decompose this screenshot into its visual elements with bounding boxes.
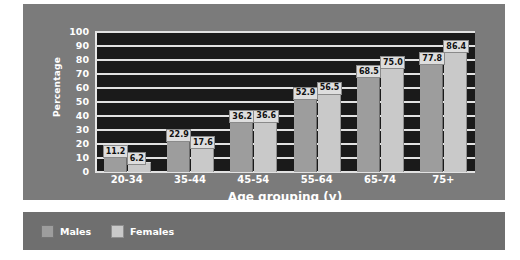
bar-females-65-74	[381, 66, 404, 172]
legend-swatch-icon	[111, 225, 124, 238]
gridline	[95, 101, 475, 103]
y-axis-tick-label: 40	[63, 111, 89, 121]
gridline	[95, 31, 475, 33]
y-axis-tick-label: 80	[63, 55, 89, 65]
x-axis-tick-label: 35-44	[158, 174, 221, 185]
x-axis-tick-label: 45-54	[222, 174, 285, 185]
y-axis-tick-label: 0	[63, 167, 89, 177]
value-label: 36.2	[229, 110, 254, 123]
bar-males-35-44	[167, 139, 190, 172]
y-axis-tick-label: 50	[63, 97, 89, 107]
x-axis-tick-label: 65-74	[348, 174, 411, 185]
legend-swatch-icon	[41, 225, 54, 238]
chart-panel: Percentage 1009080706050403020100 11.26.…	[23, 4, 505, 200]
gridline	[95, 143, 475, 145]
bar-females-35-44	[191, 146, 214, 172]
bar-males-75+	[420, 62, 443, 172]
value-label: 52.9	[293, 87, 318, 100]
x-axis-tick-label: 20-34	[95, 174, 158, 185]
legend-item-males[interactable]: Males	[41, 225, 91, 238]
value-label: 75.0	[380, 56, 405, 69]
y-axis-tick-label: 60	[63, 83, 89, 93]
plot-area: 11.26.222.917.636.236.652.956.568.575.07…	[95, 32, 475, 172]
value-label: 6.2	[127, 152, 147, 165]
y-axis-tick-label: 30	[63, 125, 89, 135]
bar-males-65-74	[357, 75, 380, 172]
gridline	[95, 157, 475, 159]
bar-females-55-64	[318, 92, 341, 172]
value-label: 11.2	[103, 145, 128, 158]
value-label: 36.6	[253, 110, 278, 123]
figure-root: Percentage 1009080706050403020100 11.26.…	[0, 0, 520, 260]
value-label: 17.6	[190, 136, 215, 149]
x-axis-tick-label: 75+	[412, 174, 475, 185]
gridline	[95, 87, 475, 89]
gridline	[95, 129, 475, 131]
y-axis-tick-label: 20	[63, 139, 89, 149]
gridline	[95, 59, 475, 61]
legend-label: Females	[130, 226, 174, 237]
legend-item-females[interactable]: Females	[111, 225, 174, 238]
y-axis-tick-label: 100	[63, 27, 89, 37]
legend-panel: MalesFemales	[23, 212, 505, 250]
x-axis-tick-labels: 20-3435-4445-5455-6465-7475+	[95, 174, 475, 188]
value-label: 77.8	[419, 52, 444, 65]
bar-males-45-54	[230, 120, 253, 172]
legend-label: Males	[60, 226, 91, 237]
x-axis-tick-label: 55-64	[285, 174, 348, 185]
gridline	[95, 171, 475, 173]
value-label: 56.5	[317, 82, 342, 95]
bar-females-75+	[444, 50, 467, 172]
bar-females-45-54	[254, 120, 277, 172]
gridline	[95, 115, 475, 117]
y-axis-tick-label: 10	[63, 153, 89, 163]
bar-males-55-64	[294, 97, 317, 172]
gridline	[95, 73, 475, 75]
y-axis-tick-label: 70	[63, 69, 89, 79]
value-label: 22.9	[166, 129, 191, 142]
value-label: 86.4	[443, 40, 468, 53]
y-axis-tick-label: 90	[63, 41, 89, 51]
value-label: 68.5	[356, 65, 381, 78]
gridline	[95, 45, 475, 47]
x-axis-title: Age grouping (y)	[95, 190, 475, 204]
